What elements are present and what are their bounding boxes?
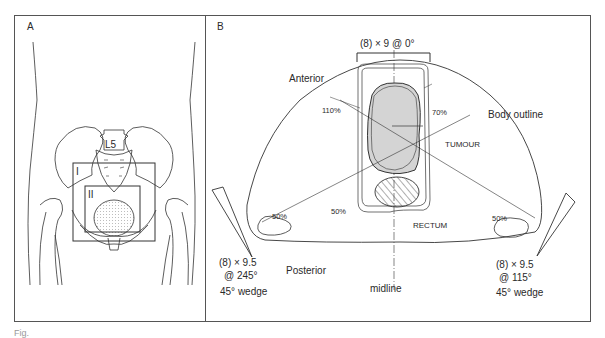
left-ilium: [55, 127, 103, 188]
wedge-115: [537, 193, 575, 256]
panel-b-label: B: [217, 22, 224, 32]
isodose-50-center-label: 50%: [331, 208, 346, 216]
body-outline-label: Body outline: [488, 110, 543, 120]
beam-245-wedge: 45° wedge: [220, 287, 267, 297]
l5-label: L5: [105, 140, 116, 150]
isodose-50-left-label: 50%: [272, 213, 287, 221]
beam-115-size: (8) × 9.5: [496, 260, 534, 270]
torso-right-outline: [190, 42, 195, 285]
beam-245-angle: @ 245°: [224, 271, 258, 281]
anterior-label: Anterior: [289, 74, 324, 84]
anterior-beam-label: (8) × 9 @ 0°: [360, 39, 414, 49]
wedge-245: [212, 187, 252, 257]
isodose-70-label: 70%: [432, 109, 447, 117]
field-i-label: I: [76, 167, 79, 177]
figure-caption-fragment: Fig.: [14, 328, 29, 338]
isodose-50-right-label: 50%: [492, 215, 507, 223]
right-ilium: [125, 127, 173, 188]
anterior-beam-bracket: [357, 53, 430, 62]
torso-left-outline: [28, 42, 37, 285]
rectum: [375, 177, 419, 207]
posterior-label: Posterior: [286, 266, 326, 276]
rectum-label: RECTUM: [413, 222, 447, 230]
panel-a-label: A: [27, 22, 34, 32]
tumour-label: TUMOUR: [445, 141, 480, 149]
isodose-110-label: 110%: [322, 107, 341, 115]
midline-label: midline: [370, 284, 402, 294]
left-femur: [40, 198, 63, 285]
beam-115-wedge: 45° wedge: [496, 288, 543, 298]
beam-115-angle: @ 115°: [499, 273, 532, 283]
beam-245-size: (8) × 9.5: [219, 258, 257, 268]
field-ii-label: II: [88, 190, 94, 200]
bladder: [94, 200, 134, 236]
